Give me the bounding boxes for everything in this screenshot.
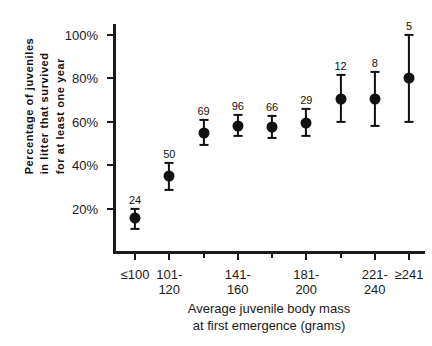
error-bar-cap-upper bbox=[165, 162, 174, 164]
x-tick-6 bbox=[340, 253, 342, 258]
data-point-marker bbox=[130, 213, 141, 224]
x-tick-label-line: ≥241 bbox=[395, 267, 424, 282]
error-bar-cap-upper bbox=[302, 108, 311, 110]
error-bar-cap-lower bbox=[268, 137, 277, 139]
x-tick-label-line: 160 bbox=[225, 282, 251, 297]
x-axis-title-line-2: at first emergence (grams) bbox=[113, 317, 425, 334]
sample-size-label: 12 bbox=[334, 60, 346, 72]
y-tick-40%: 40% bbox=[107, 164, 114, 166]
error-bar-cap-upper bbox=[405, 34, 414, 36]
x-tick-0 bbox=[134, 253, 136, 260]
x-tick-2 bbox=[203, 253, 205, 258]
error-bar-cap-upper bbox=[268, 115, 277, 117]
chart-figure: Percentage of juveniles in litter that s… bbox=[0, 0, 432, 346]
y-axis-title-line-3: for at least one year bbox=[53, 58, 69, 175]
x-tick-5 bbox=[305, 253, 307, 260]
y-tick-label: 100% bbox=[65, 27, 98, 42]
sample-size-label: 66 bbox=[266, 101, 278, 113]
sample-size-label: 5 bbox=[406, 20, 412, 32]
x-axis-line bbox=[113, 251, 425, 254]
y-tick-label: 40% bbox=[72, 158, 98, 173]
x-tick-label-line: 240 bbox=[362, 282, 388, 297]
x-tick-4 bbox=[271, 253, 273, 258]
x-tick-1 bbox=[168, 253, 170, 260]
y-tick-60%: 60% bbox=[107, 121, 114, 123]
x-tick-label-line: 101- bbox=[156, 267, 182, 282]
sample-size-label: 8 bbox=[372, 57, 378, 69]
x-tick-label: 141-160 bbox=[225, 267, 251, 297]
error-bar-cap-lower bbox=[370, 125, 379, 127]
x-tick-label: 181-200 bbox=[293, 267, 319, 297]
y-tick-80%: 80% bbox=[107, 77, 114, 79]
sample-size-label: 50 bbox=[163, 148, 175, 160]
data-point-marker bbox=[301, 117, 312, 128]
x-tick-label: ≤100 bbox=[121, 267, 150, 282]
y-axis-title-line-1: Percentage of juveniles bbox=[22, 38, 38, 175]
y-tick-label: 80% bbox=[72, 71, 98, 86]
x-tick-8 bbox=[408, 253, 410, 260]
x-tick-label-line: 200 bbox=[293, 282, 319, 297]
error-bar-cap-lower bbox=[199, 143, 208, 145]
y-tick-label: 60% bbox=[72, 114, 98, 129]
x-axis-title: Average juvenile body mass at first emer… bbox=[113, 300, 425, 334]
y-axis-line bbox=[113, 24, 116, 253]
y-tick-label: 20% bbox=[72, 201, 98, 216]
error-bar-cap-upper bbox=[233, 114, 242, 116]
data-point-marker bbox=[369, 93, 380, 104]
data-point-marker bbox=[267, 122, 278, 133]
y-tick-20%: 20% bbox=[107, 208, 114, 210]
y-tick-100%: 100% bbox=[107, 34, 114, 36]
x-tick-label-line: 221- bbox=[362, 267, 388, 282]
sample-size-label: 96 bbox=[232, 100, 244, 112]
data-point-marker bbox=[232, 121, 243, 132]
x-tick-7 bbox=[374, 253, 376, 260]
x-tick-label-line: 120 bbox=[156, 282, 182, 297]
x-tick-label: 101-120 bbox=[156, 267, 182, 297]
data-point-marker bbox=[198, 127, 209, 138]
x-tick-label-line: 181- bbox=[293, 267, 319, 282]
plot-area: 20%40%60%80%100% 2450699666291285 ≤10010… bbox=[113, 24, 425, 253]
error-bar-cap-lower bbox=[233, 135, 242, 137]
x-tick-label: 221-240 bbox=[362, 267, 388, 297]
sample-size-label: 29 bbox=[300, 94, 312, 106]
error-bar-cap-upper bbox=[336, 74, 345, 76]
data-point-marker bbox=[404, 73, 415, 84]
data-point-marker bbox=[164, 171, 175, 182]
error-bar-cap-upper bbox=[370, 71, 379, 73]
x-tick-label-line: ≤100 bbox=[121, 267, 150, 282]
error-bar-cap-lower bbox=[405, 121, 414, 123]
error-bar-cap-lower bbox=[302, 135, 311, 137]
x-axis-title-line-1: Average juvenile body mass bbox=[113, 300, 425, 317]
x-tick-label-line: 141- bbox=[225, 267, 251, 282]
sample-size-label: 24 bbox=[129, 194, 141, 206]
y-axis-title-line-2: in litter that survived bbox=[37, 52, 53, 174]
data-point-marker bbox=[335, 93, 346, 104]
error-bar-cap-upper bbox=[199, 118, 208, 120]
x-tick-3 bbox=[237, 253, 239, 260]
error-bar-cap-lower bbox=[165, 189, 174, 191]
error-bar-cap-upper bbox=[131, 207, 140, 209]
error-bar-cap-lower bbox=[131, 228, 140, 230]
x-tick-label: ≥241 bbox=[395, 267, 424, 282]
sample-size-label: 69 bbox=[197, 105, 209, 117]
error-bar-cap-lower bbox=[336, 121, 345, 123]
